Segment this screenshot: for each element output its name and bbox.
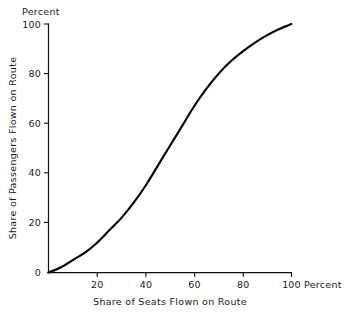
y-tick-label-60: 60 (29, 118, 42, 129)
y-tick-label-40: 40 (29, 167, 42, 178)
x-tick-label-80: 80 (237, 279, 250, 290)
chart-background (0, 0, 347, 315)
x-tick-label-60: 60 (188, 279, 201, 290)
y-tick-label-0: 0 (35, 267, 41, 278)
chart-figure: Percent 100 80 60 40 20 0 (0, 0, 347, 315)
s-curve-chart: Percent 100 80 60 40 20 0 (0, 0, 347, 315)
y-axis-unit-label: Percent (22, 6, 60, 17)
y-tick-label-80: 80 (29, 68, 42, 79)
x-tick-label-40: 40 (140, 279, 153, 290)
x-tick-label-20: 20 (91, 279, 104, 290)
y-tick-label-20: 20 (29, 217, 42, 228)
x-axis-title: Share of Seats Flown on Route (93, 296, 247, 307)
x-tick-label-100: 100 (282, 279, 301, 290)
y-axis-title: Share of Passengers Flown on Route (7, 57, 18, 240)
y-tick-label-100: 100 (22, 19, 41, 30)
x-axis-unit-label: Percent (304, 279, 342, 290)
